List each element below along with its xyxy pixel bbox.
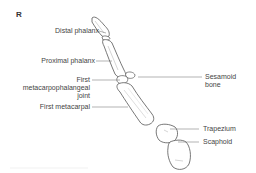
scaphoid-shape (168, 140, 191, 169)
label-first-metacarpal: First metacarpal (40, 103, 90, 111)
label-mcp-joint-line3: joint (23, 92, 90, 100)
label-scaphoid: Scaphoid (203, 138, 232, 146)
label-distal-phalanx: Distal phalanx (55, 27, 99, 35)
proximal-phalanx-shape (103, 40, 126, 78)
label-sesamoid-bone: Sesamoid bone (205, 73, 236, 89)
label-sesamoid-line1: Sesamoid (205, 73, 236, 81)
first-metacarpal-shape (117, 83, 154, 125)
label-sesamoid-line2: bone (205, 81, 236, 89)
label-proximal-phalanx: Proximal phalanx (41, 57, 95, 65)
label-mcp-joint-line1: First (23, 76, 90, 84)
label-trapezium: Trapezium (203, 125, 236, 133)
trapezium-shape (156, 124, 177, 143)
label-mcp-joint-line2: metacarpophalangeal (23, 84, 90, 92)
label-mcp-joint: First metacarpophalangeal joint (23, 76, 90, 100)
